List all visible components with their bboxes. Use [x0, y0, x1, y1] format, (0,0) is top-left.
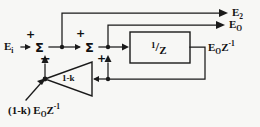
- input-signal-label: Ei: [4, 41, 13, 55]
- summer-2-plus-sign-top: +: [76, 28, 85, 39]
- delay-denominator: Z: [159, 44, 166, 56]
- wire-external-feedback-arrow: [26, 78, 46, 100]
- delay-numerator: 1: [151, 40, 156, 50]
- external-feedback-label: (1-k) EOZ-1: [8, 103, 60, 118]
- output-e0-subscript: O: [236, 24, 242, 33]
- unit-delay-block-label: 1/Z: [151, 40, 166, 53]
- summer-1-plus-sign: +: [26, 29, 35, 40]
- summer-2-sigma-symbol: Σ: [85, 41, 94, 54]
- wire-summer2-to-delay: [99, 44, 129, 51]
- delayed-output-exponent: -1: [229, 39, 235, 48]
- external-feedback-z: Z: [47, 104, 54, 116]
- summer-2-plus-sign-bottom: +: [97, 53, 106, 64]
- summer-1-minus-sign: −: [40, 52, 51, 65]
- external-feedback-prefix: (1-k) E: [8, 104, 41, 116]
- delayed-output-z: Z: [221, 41, 228, 53]
- input-signal-subscript: i: [11, 46, 13, 55]
- wire-summer1-to-summer2: [49, 44, 81, 50]
- gain-triangle-label: 1-k: [62, 74, 75, 83]
- block-diagram-figure: Σ Σ + − + + Ei E2 EO EOZ-1 (1-k) EOZ-1 1…: [0, 0, 260, 127]
- output-e0-label: EO: [229, 19, 242, 33]
- wire-input-to-summer1: [21, 44, 31, 50]
- delayed-output-label: EOZ-1: [208, 40, 235, 55]
- external-feedback-exponent: -1: [54, 102, 60, 111]
